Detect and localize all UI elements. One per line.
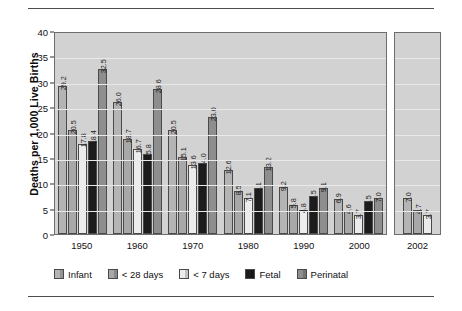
gridline-5 xyxy=(395,211,440,212)
legend-label: Infant xyxy=(68,269,92,280)
gridline-5 xyxy=(55,211,386,212)
bar-1980-infant: 12.6 xyxy=(224,170,233,234)
bar-1960-fetal: 15.8 xyxy=(143,154,152,234)
bar-1990-fetal: 7.5 xyxy=(309,196,318,234)
plot-panel-main: 29.220.517.818.432.526.018.716.715.828.6… xyxy=(54,32,387,235)
x-axis-label-1960: 1960 xyxy=(110,240,166,256)
bar-value-label: 15.8 xyxy=(144,144,151,158)
y-axis-tick-20: 20 xyxy=(37,128,48,139)
legend-item-fetal: Fetal xyxy=(245,269,280,280)
bar-1970--7-days: 13.6 xyxy=(188,165,197,234)
bar-group-2002: 7.04.73.7 xyxy=(395,33,440,234)
gridline-35 xyxy=(395,58,440,59)
bar-group-1990: 9.25.84.87.59.1 xyxy=(276,33,331,234)
bar-value-label: 20.5 xyxy=(170,120,177,134)
bar-1980--7-days: 7.1 xyxy=(244,198,253,234)
bar-value-label: 32.5 xyxy=(99,59,106,73)
gridline-15 xyxy=(55,160,386,161)
bar-2000-fetal: 6.5 xyxy=(364,201,373,234)
bar-1970--28-days: 15.1 xyxy=(178,157,187,234)
bar-group-2000: 6.94.63.76.57.0 xyxy=(331,33,386,234)
bars-1950: 29.220.517.818.432.5 xyxy=(55,33,110,234)
bar-2000--7-days: 3.7 xyxy=(354,215,363,234)
bar-value-label: 13.6 xyxy=(190,155,197,169)
bar-value-label: 4.6 xyxy=(345,205,352,215)
y-axis-tick-40: 40 xyxy=(37,27,48,38)
bar-group-1970: 20.515.113.614.023.0 xyxy=(165,33,220,234)
legend-swatch xyxy=(54,269,64,279)
legend-item--7-days: < 7 days xyxy=(179,269,229,280)
legend-swatch xyxy=(245,269,255,279)
gridline-20 xyxy=(55,135,386,136)
bar-value-label: 4.8 xyxy=(300,203,307,213)
bar-value-label: 7.1 xyxy=(245,192,252,202)
bar-2000-perinatal: 7.0 xyxy=(374,198,383,234)
chart-legend: Infant< 28 days< 7 daysFetalPerinatal xyxy=(54,266,434,282)
bar-2002--7-days: 3.7 xyxy=(423,215,432,234)
legend-item--28-days: < 28 days xyxy=(108,269,163,280)
bar-value-label: 12.6 xyxy=(225,160,232,174)
bar-value-label: 18.7 xyxy=(124,129,131,143)
bar-value-label: 5.8 xyxy=(290,198,297,208)
y-axis-tick-25: 25 xyxy=(37,103,48,114)
bar-value-label: 20.5 xyxy=(69,120,76,134)
bar-1960-perinatal: 28.6 xyxy=(153,89,162,234)
bars-1970: 20.515.113.614.023.0 xyxy=(165,33,220,234)
bars-2002: 7.04.73.7 xyxy=(395,33,440,234)
y-axis-tick-15: 15 xyxy=(37,153,48,164)
bar-1950--7-days: 17.8 xyxy=(78,144,87,234)
bar-group-1950: 29.220.517.818.432.5 xyxy=(55,33,110,234)
x-axis-label-2002: 2002 xyxy=(394,240,441,251)
gridline-10 xyxy=(395,185,440,186)
x-axis-label-1980: 1980 xyxy=(221,240,277,256)
bar-1950-perinatal: 32.5 xyxy=(98,69,107,234)
legend-label: < 7 days xyxy=(193,269,229,280)
bar-value-label: 7.0 xyxy=(375,192,382,202)
y-axis-tick-0: 0 xyxy=(43,230,48,241)
bar-value-label: 26.0 xyxy=(114,92,121,106)
bar-1960--7-days: 16.7 xyxy=(133,149,142,234)
plot-panel-2002: 7.04.73.7 xyxy=(394,32,441,235)
legend-label: Fetal xyxy=(259,269,280,280)
bar-groups-2002: 7.04.73.7 xyxy=(395,33,440,234)
bar-2002-infant: 7.0 xyxy=(403,198,412,234)
bar-1990--28-days: 5.8 xyxy=(289,205,298,234)
bar-value-label: 9.1 xyxy=(255,182,262,192)
bar-value-label: 18.4 xyxy=(89,130,96,144)
bar-value-label: 9.1 xyxy=(320,182,327,192)
bar-1960--28-days: 18.7 xyxy=(123,139,132,234)
legend-label: Perinatal xyxy=(311,269,349,280)
y-axis-tick-30: 30 xyxy=(37,77,48,88)
bar-value-label: 17.8 xyxy=(79,133,86,147)
x-axis-labels-main: 195019601970198019902000 xyxy=(54,240,387,256)
gridline-25 xyxy=(55,109,386,110)
legend-label: < 28 days xyxy=(122,269,163,280)
x-axis-label-1990: 1990 xyxy=(276,240,332,256)
bar-1950--28-days: 20.5 xyxy=(68,130,77,234)
gridline-25 xyxy=(395,109,440,110)
bar-value-label: 16.7 xyxy=(134,139,141,153)
bar-2002--28-days: 4.7 xyxy=(413,210,422,234)
bar-2000-infant: 6.9 xyxy=(334,199,343,234)
bar-1970-fetal: 14.0 xyxy=(198,163,207,234)
bar-1960-infant: 26.0 xyxy=(113,102,122,234)
legend-swatch xyxy=(179,269,189,279)
top-divider-rule xyxy=(28,8,434,9)
y-axis-tick-10: 10 xyxy=(37,179,48,190)
gridline-30 xyxy=(55,84,386,85)
bar-value-label: 6.5 xyxy=(365,195,372,205)
legend-swatch xyxy=(297,269,307,279)
bar-1970-infant: 20.5 xyxy=(168,130,177,234)
gridline-15 xyxy=(395,160,440,161)
bar-2000--28-days: 4.6 xyxy=(344,211,353,234)
gridline-35 xyxy=(55,58,386,59)
bottom-divider-rule xyxy=(28,296,434,297)
bar-groups-main: 29.220.517.818.432.526.018.716.715.828.6… xyxy=(55,33,386,234)
y-axis-tick-5: 5 xyxy=(43,204,48,215)
bars-1980: 12.68.57.19.113.2 xyxy=(221,33,276,234)
gridline-10 xyxy=(55,185,386,186)
bars-1960: 26.018.716.715.828.6 xyxy=(110,33,165,234)
legend-item-perinatal: Perinatal xyxy=(297,269,349,280)
gridline-30 xyxy=(395,84,440,85)
chart-figure: Deaths per 1,000 Live Births 05101520253… xyxy=(0,0,462,311)
